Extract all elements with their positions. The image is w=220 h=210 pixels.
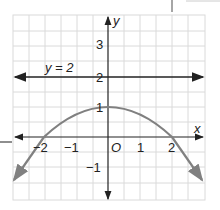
x-axis-label: x (193, 121, 201, 136)
x-tick-label: 2 (168, 140, 175, 155)
y-tick-label: 1 (96, 100, 103, 115)
y-tick-label: 3 (96, 37, 103, 52)
y-tick-label: 2 (96, 70, 103, 85)
parabola-curve (172, 137, 202, 180)
x-tick-label: 1 (137, 140, 144, 155)
line-label: y = 2 (44, 60, 74, 75)
origin-label: O (111, 140, 121, 155)
x-tick-label: −2 (33, 140, 48, 155)
coordinate-graph: y x O −2 −1 1 2 3 2 1 −1 y = 2 (0, 0, 220, 210)
x-tick-label: −1 (64, 140, 79, 155)
y-tick-label: −1 (86, 160, 101, 175)
